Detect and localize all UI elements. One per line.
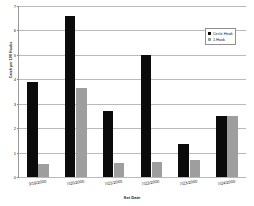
x-axis-tick-labels: 3/19/20007/20/20007/21/20007/22/20007/23… — [18, 180, 246, 194]
y-axis-tick-label: 3 — [6, 101, 16, 106]
y-axis-tick — [17, 177, 20, 178]
legend-label: J-Hook — [213, 38, 225, 42]
bar — [178, 144, 189, 177]
bar — [103, 111, 114, 177]
x-axis-tick-label: 7/20/2000 — [66, 179, 85, 187]
x-axis-title: Set Date — [18, 195, 246, 200]
legend-swatch — [208, 32, 212, 36]
bar — [190, 160, 201, 177]
x-axis-tick-label: 7/21/2000 — [104, 179, 123, 187]
bar — [38, 164, 49, 177]
bar-group — [178, 6, 200, 177]
gridline — [19, 177, 246, 178]
y-axis-tick-label: 6 — [6, 28, 16, 33]
y-axis-tick-labels: 01234567 — [6, 6, 16, 178]
bar — [141, 55, 152, 177]
bar — [27, 82, 38, 177]
bar — [76, 88, 87, 177]
bar — [114, 163, 125, 177]
y-axis-tick-label: 1 — [6, 150, 16, 155]
bar — [65, 16, 76, 177]
bar-group — [103, 6, 125, 177]
x-axis-tick-label: 3/19/2000 — [28, 179, 47, 187]
y-axis-tick-label: 2 — [6, 126, 16, 131]
bar-group — [65, 6, 87, 177]
legend-entry: J-Hook — [208, 37, 233, 43]
legend-label: Circle Hook — [213, 32, 233, 36]
legend-swatch — [208, 38, 212, 42]
bar-chart: Catch per 100 Hooks 01234567 3/19/20007/… — [0, 0, 254, 206]
x-axis-tick-label: 7/24/2000 — [217, 179, 236, 187]
bar — [227, 116, 238, 177]
chart-legend: Circle HookJ-Hook — [205, 28, 236, 45]
y-axis-tick-label: 7 — [6, 4, 16, 9]
bar — [216, 116, 227, 177]
y-axis-tick-label: 0 — [6, 175, 16, 180]
y-axis-tick-label: 5 — [6, 52, 16, 57]
bar-group — [141, 6, 163, 177]
x-axis-tick-label: 7/22/2000 — [141, 179, 160, 187]
bar — [152, 162, 163, 177]
bar-group — [27, 6, 49, 177]
y-axis-tick-label: 4 — [6, 77, 16, 82]
x-axis-tick-label: 7/23/2000 — [179, 179, 198, 187]
